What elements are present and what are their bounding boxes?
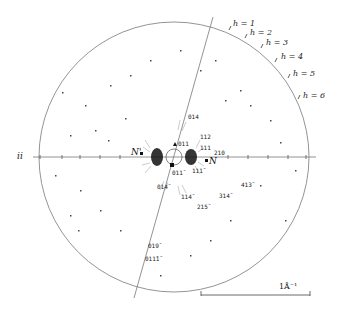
layer-label-h4: h = 4: [281, 53, 303, 61]
scale-bar-label: 1Å⁻¹: [279, 283, 297, 291]
reflection-014: 014: [188, 114, 199, 120]
diffraction-spots: [55, 50, 297, 277]
scale-bar: [201, 291, 310, 296]
reflection-01-9: 019̄: [148, 243, 159, 249]
pole-n: N: [209, 157, 217, 166]
layer-label-h3: h = 3: [266, 39, 288, 47]
reflection-41-3: 413̄: [241, 182, 252, 188]
reflection-11-1: 111̄: [192, 168, 203, 174]
reflection-31-4: 314̄: [219, 193, 230, 199]
reflection-111: 111: [200, 145, 211, 151]
reflection-01-1: 011̄: [172, 170, 183, 176]
layer-label-h1: h = 1: [233, 20, 255, 28]
diffraction-figure: [0, 0, 341, 315]
reflection-112: 112: [200, 134, 211, 140]
layer-label-h2: h = 2: [250, 29, 272, 37]
layer-label-h5: h = 5: [293, 70, 315, 78]
pole-n-prime: N': [131, 148, 141, 157]
layer-label-h6: h = 6: [303, 92, 325, 100]
reflection-011: 011: [178, 141, 189, 147]
reflection-01-11: 011̄1̄: [145, 256, 159, 262]
reflection-01-4: 014̄: [157, 184, 168, 190]
reflection-21-5: 215̄: [197, 204, 208, 210]
axis-label: ii: [17, 152, 23, 161]
reflection-11-4: 114̄: [181, 194, 192, 200]
